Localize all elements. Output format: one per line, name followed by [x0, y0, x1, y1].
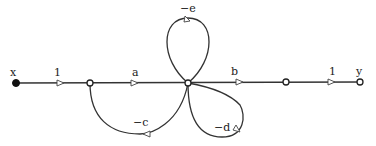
node-x	[13, 80, 20, 87]
gain-label: −d	[214, 121, 230, 134]
gain-label: a	[132, 66, 139, 79]
gain-label: b	[231, 65, 238, 78]
self-loop-e	[167, 18, 209, 83]
gain-label: 1	[54, 66, 61, 79]
node-n3	[283, 79, 289, 85]
node-y	[357, 79, 363, 85]
arrow-icon	[143, 131, 150, 137]
gain-label: −e	[180, 2, 196, 15]
gain-label: 1	[329, 65, 336, 78]
arrow-icon	[236, 79, 243, 85]
arrow-icon	[184, 16, 190, 22]
arrow-icon	[57, 80, 64, 86]
arrow-icon	[233, 125, 240, 132]
node-n2	[185, 80, 191, 86]
node-n1	[87, 80, 93, 86]
gain-label: −c	[133, 116, 148, 129]
arrow-icon	[131, 80, 138, 86]
node-label-x: x	[10, 66, 17, 79]
arrow-icon	[328, 79, 335, 85]
signal-flow-graph: x y 1 a b 1 −e −d −c	[0, 0, 376, 146]
node-label-y: y	[355, 65, 363, 78]
